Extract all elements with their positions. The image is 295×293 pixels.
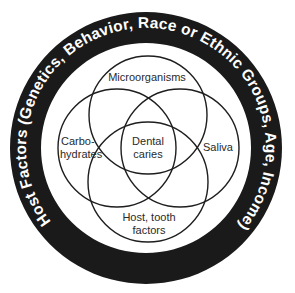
saliva-label: Saliva bbox=[203, 141, 234, 153]
carbohydrates-label-line1: Carbo- bbox=[61, 135, 95, 147]
microorganisms-label: Microorganisms bbox=[108, 71, 186, 83]
host-tooth-factors-label-line2: factors bbox=[132, 224, 166, 236]
dental-caries-venn-diagram: Host Factors (Genetics, Behavior, Race o… bbox=[0, 0, 295, 293]
dental-caries-label-line1: Dental bbox=[132, 135, 164, 147]
host-tooth-factors-label-line1: Host, tooth bbox=[122, 211, 175, 223]
dental-caries-label-line2: caries bbox=[133, 148, 163, 160]
carbohydrates-label-line2: hydrates bbox=[60, 148, 103, 160]
